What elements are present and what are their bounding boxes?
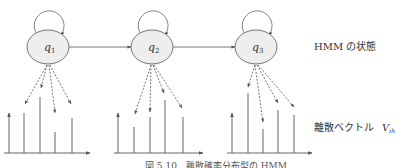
discrete-vector-label: 離散ベクトルVih bbox=[314, 119, 395, 134]
discrete-vector-text: 離散ベクトル bbox=[314, 122, 374, 133]
emission-arrows-q2 bbox=[135, 65, 182, 114]
vector-subscript: ih bbox=[389, 127, 395, 134]
distribution-chart-q3 bbox=[227, 93, 312, 153]
state-node-q1: q1 bbox=[27, 30, 69, 64]
figure-caption: 図 5.10 離散確率分布型の HMM bbox=[145, 159, 287, 168]
state-node-q3: q3 bbox=[235, 30, 277, 64]
state-node-q2: q2 bbox=[131, 30, 173, 64]
distribution-chart-q1 bbox=[4, 97, 90, 153]
hmm-diagram: q1 q2 q3 bbox=[0, 0, 406, 168]
hmm-state-label: HMM の状態 bbox=[314, 38, 376, 53]
emission-arrows-q3 bbox=[248, 65, 294, 122]
emission-arrows-q1 bbox=[25, 65, 71, 113]
distribution-chart-q2 bbox=[114, 100, 203, 153]
